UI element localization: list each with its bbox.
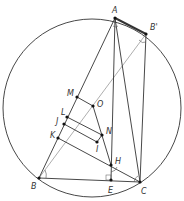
- label-c: C: [141, 188, 147, 196]
- point-c: [138, 180, 141, 183]
- label-n: N: [106, 128, 112, 136]
- point-l: [65, 115, 68, 118]
- segment-a-b2: [115, 18, 146, 34]
- point-h: [109, 163, 112, 166]
- label-e: E: [108, 187, 113, 195]
- angle-mark-b: [45, 170, 46, 178]
- segment-a-e: [111, 18, 115, 180]
- point-n: [100, 133, 103, 136]
- circumcircle: [3, 19, 181, 197]
- label-b2: B': [150, 24, 158, 32]
- label-m: M: [67, 90, 74, 98]
- point-j: [62, 122, 65, 125]
- label-k: K: [50, 132, 55, 140]
- point-k: [56, 136, 59, 139]
- segment-b-c: [39, 178, 140, 182]
- label-i: I: [96, 146, 98, 154]
- label-h: H: [115, 158, 121, 166]
- segment-b2-c: [140, 34, 146, 182]
- label-j: J: [56, 118, 58, 126]
- point-e: [109, 178, 112, 181]
- point-m: [75, 95, 78, 98]
- point-a: [113, 16, 116, 19]
- segment-j-i: [64, 124, 97, 142]
- point-i: [95, 140, 98, 143]
- point-b: [37, 176, 40, 179]
- geometry-figure: AB'BCEHMOLJKNI: [0, 0, 184, 201]
- point-o: [91, 104, 94, 107]
- label-a: A: [112, 7, 117, 15]
- label-o: O: [97, 101, 103, 109]
- segment-m-o: [77, 97, 93, 106]
- label-b: B: [31, 183, 37, 191]
- label-l: L: [61, 109, 65, 117]
- point-b2: [144, 32, 147, 35]
- angle-mark-a: [113, 26, 118, 27]
- segment-k-c: [58, 138, 140, 182]
